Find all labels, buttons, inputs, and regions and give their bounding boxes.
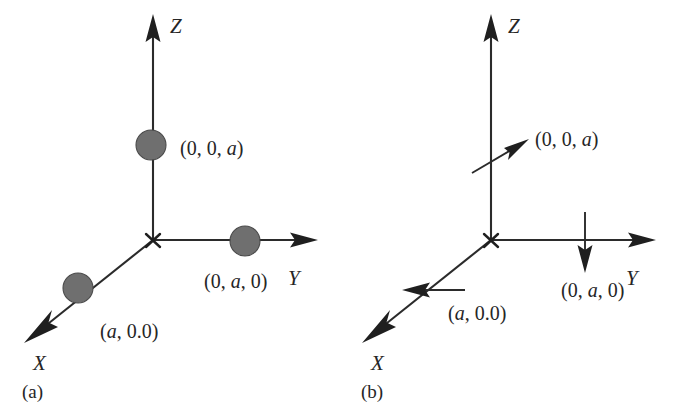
coord-label-y: (0, a, 0): [204, 270, 267, 293]
axis-y-label: Y: [288, 266, 302, 290]
axis-y-label: Y: [626, 266, 640, 290]
axis-z-label: Z: [508, 14, 520, 38]
coord-label-z: (0, 0, a): [180, 137, 243, 160]
panel-b-caption: (b): [361, 381, 383, 403]
axis-x-label: X: [370, 351, 385, 375]
displacement-arrow-y: [578, 212, 593, 273]
panel-a: Z Y X (0, 0, a) (0, a, 0): [0, 0, 345, 411]
atom-on-y-axis: [230, 226, 260, 256]
atom-on-z-axis: [136, 130, 166, 160]
coord-label-y: (0, a, 0): [561, 279, 624, 302]
displacement-arrow-z-head-icon: [504, 139, 529, 160]
axis-z-label: Z: [170, 14, 182, 38]
axis-x-label: X: [32, 351, 47, 375]
coord-label-x: (a, 0.0): [100, 320, 158, 343]
panel-a-caption: (a): [22, 381, 43, 403]
axis-x-line: [44, 240, 153, 327]
coord-label-z: (0, 0, a): [535, 128, 598, 151]
figure-root: Z Y X (0, 0, a) (0, a, 0): [0, 0, 691, 411]
panel-b: Z Y X: [345, 0, 691, 411]
coord-label-x: (a, 0.0): [448, 302, 506, 325]
axis-x-arrowhead-icon: [362, 310, 396, 343]
axis-x-arrowhead-icon: [24, 310, 58, 343]
axis-x: X: [24, 240, 153, 375]
axis-z: Z: [484, 14, 521, 240]
atom-on-x-axis: [63, 273, 93, 303]
displacement-arrow-z: [472, 139, 529, 173]
axis-z: Z: [146, 14, 183, 240]
